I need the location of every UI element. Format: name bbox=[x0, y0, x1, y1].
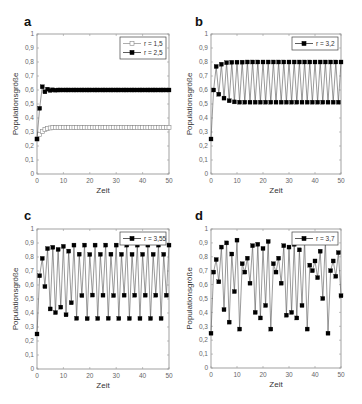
data-point-marker bbox=[290, 310, 294, 314]
data-point-marker bbox=[225, 241, 229, 245]
data-point-marker bbox=[40, 256, 44, 260]
y-tick-label: 0,5 bbox=[25, 100, 34, 107]
data-point-marker bbox=[303, 60, 307, 64]
legend: r = 3,7 bbox=[292, 232, 338, 245]
y-axis-label: Populationsgröße bbox=[11, 267, 20, 330]
legend-label: r = 2,5 bbox=[144, 49, 163, 56]
data-point-marker bbox=[310, 100, 314, 104]
data-point-marker bbox=[336, 100, 340, 104]
data-point-marker bbox=[80, 294, 84, 298]
data-point-marker bbox=[222, 96, 226, 100]
data-point-marker bbox=[248, 100, 252, 104]
y-tick-label: 0,9 bbox=[199, 239, 208, 246]
data-point-marker bbox=[219, 62, 223, 66]
data-point-marker bbox=[164, 293, 168, 297]
y-tick-label: 0,7 bbox=[199, 72, 208, 79]
y-tick-label: 0,6 bbox=[25, 86, 34, 93]
x-axis-label: Zeit bbox=[96, 186, 110, 195]
data-point-marker bbox=[300, 100, 304, 104]
data-point-marker bbox=[114, 243, 118, 247]
data-point-marker bbox=[331, 100, 335, 104]
series-line bbox=[37, 245, 169, 334]
y-tick-label: 0,7 bbox=[199, 267, 208, 274]
data-point-marker bbox=[269, 327, 273, 331]
data-point-marker bbox=[318, 249, 322, 253]
data-point-marker bbox=[232, 290, 236, 294]
chart-b: 00,10,20,30,40,50,60,70,80,9101020304050… bbox=[181, 0, 362, 202]
x-tick-label: 40 bbox=[139, 177, 147, 184]
y-tick-label: 0,7 bbox=[25, 267, 34, 274]
data-point-marker bbox=[101, 293, 105, 297]
data-point-marker bbox=[261, 60, 265, 64]
data-point-marker bbox=[264, 303, 268, 307]
x-tick-label: 50 bbox=[337, 177, 345, 184]
data-point-marker bbox=[222, 308, 226, 312]
data-point-marker bbox=[323, 60, 327, 64]
y-tick-label: 0 bbox=[204, 170, 208, 177]
x-tick-label: 20 bbox=[259, 371, 267, 378]
data-point-marker bbox=[329, 60, 333, 64]
data-point-marker bbox=[279, 281, 283, 285]
data-point-marker bbox=[61, 244, 65, 248]
data-point-marker bbox=[318, 60, 322, 64]
data-point-marker bbox=[93, 243, 97, 247]
data-point-marker bbox=[277, 256, 281, 260]
chart-c: 00,10,20,30,40,50,60,70,80,9101020304050… bbox=[0, 196, 181, 398]
data-point-marker bbox=[316, 276, 320, 280]
data-point-marker bbox=[38, 106, 42, 110]
legend-marker-icon bbox=[302, 237, 306, 241]
data-point-marker bbox=[53, 311, 57, 315]
data-point-marker bbox=[230, 252, 234, 256]
x-tick-label: 0 bbox=[209, 177, 213, 184]
y-tick-label: 0,9 bbox=[25, 239, 34, 246]
data-point-marker bbox=[217, 92, 221, 96]
data-point-marker bbox=[162, 252, 166, 256]
data-point-marker bbox=[243, 100, 247, 104]
data-point-marker bbox=[321, 100, 325, 104]
x-tick-label: 0 bbox=[35, 177, 39, 184]
y-tick-label: 0,5 bbox=[25, 295, 34, 302]
data-point-marker bbox=[277, 60, 281, 64]
data-point-marker bbox=[240, 60, 244, 64]
legend: r = 3,55 bbox=[120, 232, 167, 245]
chart-d: 00,10,20,30,40,50,60,70,80,9101020304050… bbox=[181, 196, 362, 398]
data-point-marker bbox=[227, 99, 231, 103]
data-point-marker bbox=[212, 88, 216, 92]
data-point-marker bbox=[290, 100, 294, 104]
x-tick-label: 20 bbox=[86, 177, 94, 184]
data-point-marker bbox=[282, 60, 286, 64]
data-point-marker bbox=[159, 316, 163, 320]
x-tick-label: 40 bbox=[311, 371, 319, 378]
data-point-marker bbox=[238, 327, 242, 331]
data-point-marker bbox=[305, 100, 309, 104]
legend: r = 3,2 bbox=[292, 37, 338, 50]
data-point-marker bbox=[326, 331, 330, 335]
data-point-marker bbox=[209, 137, 213, 141]
data-point-marker bbox=[69, 301, 73, 305]
data-point-marker bbox=[225, 61, 229, 65]
data-point-marker bbox=[85, 317, 89, 321]
data-point-marker bbox=[316, 100, 320, 104]
data-point-marker bbox=[238, 100, 242, 104]
y-tick-label: 0,6 bbox=[199, 86, 208, 93]
data-point-marker bbox=[149, 316, 153, 320]
data-point-marker bbox=[48, 307, 52, 311]
y-tick-label: 0,3 bbox=[25, 128, 34, 135]
data-point-marker bbox=[214, 64, 218, 68]
x-tick-label: 10 bbox=[60, 177, 68, 184]
data-point-marker bbox=[271, 60, 275, 64]
data-point-marker bbox=[308, 263, 312, 267]
data-point-marker bbox=[112, 294, 116, 298]
data-point-marker bbox=[88, 252, 92, 256]
data-point-marker bbox=[297, 248, 301, 252]
x-tick-label: 30 bbox=[113, 177, 121, 184]
data-point-marker bbox=[46, 247, 50, 251]
data-point-marker bbox=[167, 125, 171, 129]
data-point-marker bbox=[284, 313, 288, 317]
y-tick-label: 0,3 bbox=[199, 128, 208, 135]
data-point-marker bbox=[321, 297, 325, 301]
data-point-marker bbox=[253, 310, 257, 314]
data-point-marker bbox=[230, 60, 234, 64]
data-point-marker bbox=[235, 238, 239, 242]
data-point-marker bbox=[251, 60, 255, 64]
